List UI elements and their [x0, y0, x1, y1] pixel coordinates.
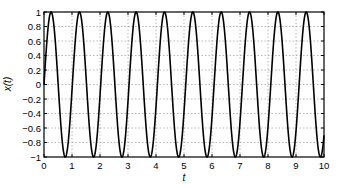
y-tick-label: 0.2	[28, 65, 41, 76]
x-tick-label: 3	[125, 160, 130, 171]
x-tick-label: 2	[97, 160, 102, 171]
y-tick-label: 0.8	[28, 21, 41, 32]
x-tick-label: 5	[181, 160, 186, 171]
x-axis-label: t	[183, 172, 187, 183]
y-tick-label: −0.6	[22, 123, 41, 134]
x-tick-label: 9	[293, 160, 298, 171]
y-axis-label: x(t)	[2, 77, 13, 92]
y-tick-label: 1	[36, 7, 41, 18]
chart: 012345678910 10.80.60.40.20−0.2−0.4−0.6−…	[0, 0, 345, 188]
y-tick-label: 0	[36, 79, 41, 90]
y-tick-label: −0.8	[22, 137, 41, 148]
y-tick-label: −0.4	[22, 108, 41, 119]
x-tick-label: 8	[265, 160, 270, 171]
y-tick-label: 0.6	[28, 36, 41, 47]
x-tick-label: 4	[153, 160, 158, 171]
y-tick-label: 0.4	[28, 50, 41, 61]
y-tick-label: −1	[30, 152, 41, 163]
x-tick-label: 0	[41, 160, 46, 171]
x-tick-label: 7	[237, 160, 242, 171]
x-tick-label: 6	[209, 160, 214, 171]
x-tick-label: 10	[319, 160, 330, 171]
y-tick-label: −0.2	[22, 94, 41, 105]
x-tick-label: 1	[69, 160, 74, 171]
